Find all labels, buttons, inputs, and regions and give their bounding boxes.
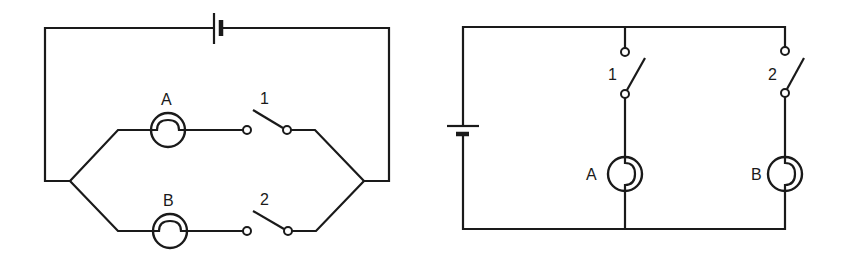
switch-2-icon-right bbox=[781, 47, 804, 97]
left-battery-icon bbox=[214, 13, 221, 44]
left-outer-wire-right bbox=[222, 28, 389, 181]
lamp-b-label-right: B bbox=[751, 166, 762, 183]
lamp-b-label: B bbox=[163, 192, 174, 209]
switch-2-label: 2 bbox=[260, 191, 269, 208]
lamp-a-label-right: A bbox=[586, 166, 597, 183]
lamp-b-icon-right bbox=[768, 157, 802, 191]
left-bottom-branch-wire-right bbox=[292, 181, 364, 231]
lamp-a-label: A bbox=[161, 91, 172, 108]
switch-1-label: 1 bbox=[260, 90, 269, 107]
right-circuit: 1 A 2 B bbox=[447, 27, 804, 229]
left-top-branch-wire-right bbox=[291, 130, 364, 181]
switch-1-icon bbox=[243, 110, 291, 134]
left-outer-wire bbox=[45, 28, 213, 181]
switch-2-icon bbox=[243, 211, 292, 235]
lamp-a-icon-right bbox=[608, 157, 642, 191]
switch-2-label-right: 2 bbox=[768, 66, 777, 83]
switch-1-icon-right bbox=[621, 48, 645, 98]
left-circuit: A 1 B 2 bbox=[45, 13, 389, 248]
lamp-b-icon bbox=[153, 214, 187, 248]
lamp-a-icon bbox=[151, 113, 185, 147]
circuit-diagrams: A 1 B 2 bbox=[0, 0, 844, 270]
right-battery-icon bbox=[447, 126, 479, 134]
switch-1-label-right: 1 bbox=[608, 66, 617, 83]
